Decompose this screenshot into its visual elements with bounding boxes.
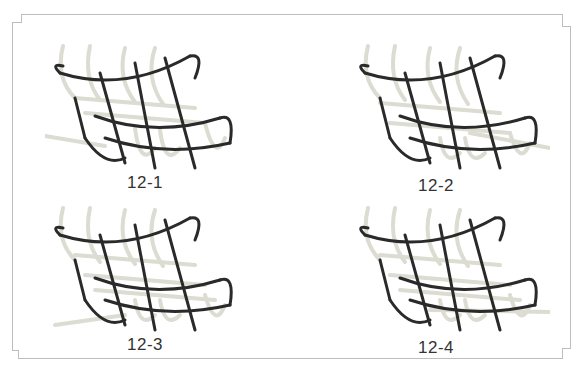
weaving-illustration-12-2: [350, 38, 550, 188]
figure-caption-12-3: 12-3: [127, 335, 163, 355]
figure-caption-12-1: 12-1: [127, 173, 163, 193]
frame-corner-notch: [562, 348, 571, 359]
frame-corner-notch: [12, 350, 19, 359]
weaving-illustration-12-3: [45, 200, 245, 350]
figure-caption-12-4: 12-4: [418, 338, 454, 358]
weaving-illustration-12-1: [45, 38, 245, 188]
weaving-illustration-12-4: [350, 200, 550, 350]
frame-corner-notch: [12, 14, 22, 23]
frame-corner-notch: [562, 14, 571, 27]
figure-caption-12-2: 12-2: [418, 176, 454, 196]
